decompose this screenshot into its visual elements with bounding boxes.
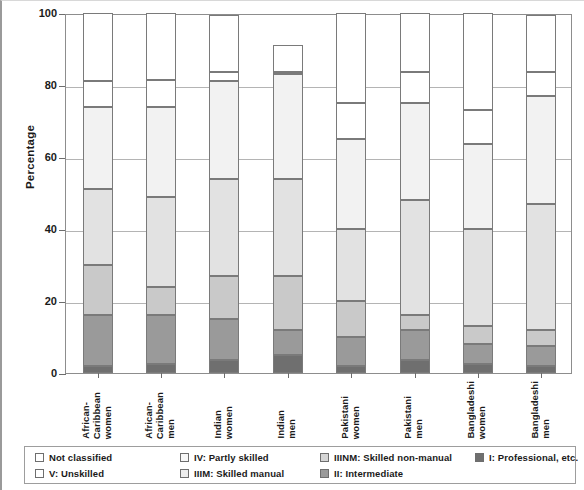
bar-segment-iiim[interactable] [400, 200, 430, 315]
bar-segment-ii[interactable] [83, 315, 113, 365]
bar-segment-iiinm[interactable] [209, 276, 239, 319]
legend-label: I: Professional, etc. [489, 452, 578, 463]
bar-segment-iv[interactable] [526, 96, 556, 204]
bar-segment-v[interactable] [526, 72, 556, 95]
x-axis-label-7: Bangladeshimen [509, 377, 572, 439]
x-axis-label-5: Pakistanimen [382, 377, 445, 439]
bar-segment-ii[interactable] [400, 330, 430, 361]
bar-segment-nc[interactable] [526, 15, 556, 73]
bar-segment-nc[interactable] [146, 13, 176, 80]
bar-segment-iiim[interactable] [83, 189, 113, 265]
legend-swatch-icon [320, 469, 329, 478]
legend-item[interactable]: IIIM: Skilled manual [180, 467, 284, 480]
legend-label: Not classified [49, 452, 112, 463]
bar-segment-iv[interactable] [209, 81, 239, 178]
x-axis-label-4: Pakistaniwomen [319, 377, 382, 439]
bar-segment-ii[interactable] [146, 315, 176, 364]
bar-segment-iiinm[interactable] [463, 326, 493, 344]
x-axis-label-line: women [224, 406, 234, 439]
bar-segment-i[interactable] [400, 360, 430, 373]
bar-segment-iiim[interactable] [146, 197, 176, 287]
legend-label: IIIM: Skilled manual [194, 468, 284, 479]
x-axis-label-2: Indianwomen [192, 377, 255, 439]
bar-segment-ii[interactable] [209, 319, 239, 360]
x-axis-label-line: women [477, 406, 487, 439]
bar-segment-i[interactable] [336, 366, 366, 373]
bar-segment-v[interactable] [83, 81, 113, 106]
bar-segment-iiinm[interactable] [273, 276, 303, 330]
bar-segment-iiinm[interactable] [336, 301, 366, 337]
bar-segment-iv[interactable] [273, 74, 303, 178]
bar-group [66, 15, 571, 373]
legend-column-3: I: Professional, etc. [475, 451, 578, 464]
bar-segment-ii[interactable] [273, 330, 303, 355]
x-axis-label-line: Bangladeshi [530, 381, 540, 439]
bar-segment-nc[interactable] [209, 15, 239, 73]
legend-swatch-icon [180, 453, 189, 462]
bar-segment-iv[interactable] [83, 107, 113, 190]
bar-segment-iiim[interactable] [526, 204, 556, 330]
bar-segment-nc[interactable] [83, 13, 113, 81]
x-axis-label-line: Pakistani [403, 396, 413, 439]
bar-segment-ii[interactable] [463, 344, 493, 364]
bar-segment-nc[interactable] [463, 13, 493, 110]
bar-segment-iiinm[interactable] [400, 315, 430, 329]
bar-segment-v[interactable] [336, 103, 366, 139]
bar-segment-iiim[interactable] [463, 229, 493, 326]
legend-item[interactable]: I: Professional, etc. [475, 451, 578, 464]
bar-segment-iiinm[interactable] [526, 330, 556, 346]
legend-swatch-icon [180, 469, 189, 478]
bar-segment-v[interactable] [209, 72, 239, 81]
legend-item[interactable]: II: Intermediate [320, 467, 452, 480]
bar-segment-iiim[interactable] [209, 179, 239, 276]
stacked-bar[interactable] [146, 13, 176, 373]
stacked-bar[interactable] [83, 13, 113, 373]
bar-segment-v[interactable] [146, 80, 176, 107]
bar-segment-iiinm[interactable] [83, 265, 113, 315]
bar-segment-i[interactable] [526, 366, 556, 373]
bar-segment-nc[interactable] [336, 13, 366, 103]
bar-segment-ii[interactable] [336, 337, 366, 366]
stacked-bar-chart: Percentage 100806040200 African-Caribbea… [0, 0, 584, 490]
legend-item[interactable]: V: Unskilled [35, 467, 112, 480]
bar-segment-v[interactable] [463, 110, 493, 144]
legend-item[interactable]: Not classified [35, 451, 112, 464]
bar-segment-i[interactable] [83, 366, 113, 373]
x-axis-label-6: Bangladeshiwomen [445, 377, 508, 439]
stacked-bar[interactable] [526, 13, 556, 373]
x-axis-label-line: African- [81, 402, 91, 439]
bar-segment-i[interactable] [209, 360, 239, 373]
legend-item[interactable]: IV: Partly skilled [180, 451, 284, 464]
bar-segment-iv[interactable] [400, 103, 430, 200]
stacked-bar[interactable] [400, 13, 430, 373]
stacked-bar[interactable] [336, 13, 366, 373]
bar-segment-iiinm[interactable] [146, 287, 176, 316]
bar-segment-iv[interactable] [463, 144, 493, 229]
legend-label: V: Unskilled [49, 468, 104, 479]
stacked-bar[interactable] [463, 13, 493, 373]
bar-segment-iv[interactable] [146, 107, 176, 197]
bar-segment-i[interactable] [463, 364, 493, 373]
legend-label: IIINM: Skilled non-manual [334, 452, 452, 463]
legend-column-0: Not classifiedV: Unskilled [35, 451, 112, 480]
bar-segment-iiim[interactable] [336, 229, 366, 301]
bar-segment-iv[interactable] [336, 139, 366, 229]
y-tick-label-20: 20 [23, 295, 57, 307]
stacked-bar[interactable] [273, 13, 303, 373]
bar-segment-nc[interactable] [400, 13, 430, 72]
bar-segment-ii[interactable] [526, 346, 556, 366]
x-axis-label-line: men [287, 419, 297, 439]
bar-slot [256, 15, 319, 373]
bar-segment-nc[interactable] [273, 45, 303, 72]
bar-segment-v[interactable] [400, 72, 430, 103]
bar-segment-v[interactable] [273, 72, 303, 74]
bar-segment-i[interactable] [146, 364, 176, 373]
bar-segment-i[interactable] [273, 355, 303, 373]
stacked-bar[interactable] [209, 13, 239, 373]
bar-segment-iiim[interactable] [273, 179, 303, 276]
x-axis-label-line: men [166, 419, 176, 439]
bar-slot [510, 15, 573, 373]
x-axis-label-line: Indian [213, 410, 223, 439]
legend-item[interactable]: IIINM: Skilled non-manual [320, 451, 452, 464]
chart-legend: Not classifiedV: UnskilledIV: Partly ski… [24, 446, 576, 484]
